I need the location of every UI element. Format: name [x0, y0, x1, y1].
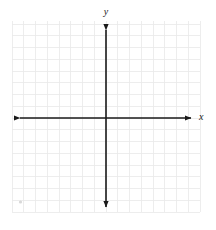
scan-artifact-dot	[19, 200, 22, 203]
x-axis-label: x	[199, 112, 211, 122]
y-axis-label: y	[100, 7, 112, 17]
plot-background	[0, 0, 216, 230]
coordinate-plane-figure: y x	[0, 0, 216, 230]
coordinate-plane-svg	[0, 0, 216, 230]
